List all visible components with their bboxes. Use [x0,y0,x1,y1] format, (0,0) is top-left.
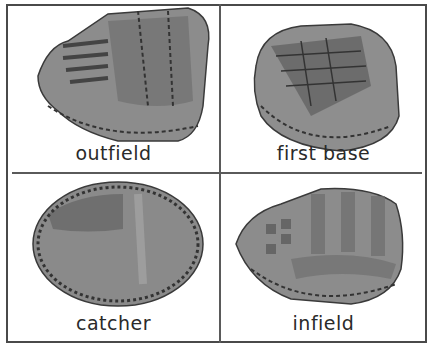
panel-outfield: outfield [8,6,219,172]
panel-catcher: catcher [8,174,219,342]
label-catcher: catcher [8,312,219,334]
panel-infield: infield [221,174,426,342]
label-first-base: first base [221,142,426,164]
label-infield: infield [221,312,426,334]
label-outfield: outfield [8,142,219,164]
panel-first-base: first base [221,6,426,172]
